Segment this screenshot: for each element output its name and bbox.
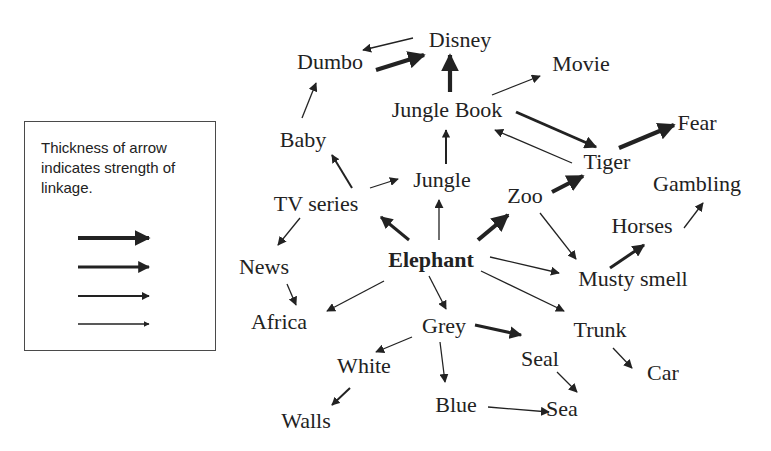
node-gambling: Gambling: [653, 173, 741, 195]
arrow-tiger-to-fear: [619, 125, 674, 148]
arrow-elephant-to-trunk: [481, 271, 564, 311]
node-trunk: Trunk: [574, 319, 627, 341]
node-disney: Disney: [429, 29, 491, 51]
arrow-elephant-to-tv-series: [381, 217, 409, 240]
arrow-baby-to-dumbo: [302, 83, 316, 118]
node-elephant: Elephant: [388, 249, 474, 271]
arrow-blue-to-sea: [488, 407, 549, 412]
node-jungle: Jungle: [413, 169, 470, 191]
node-news: News: [239, 256, 289, 278]
node-sea: Sea: [546, 398, 578, 420]
arrow-white-to-walls: [332, 388, 350, 405]
node-grey: Grey: [422, 315, 466, 337]
node-fear: Fear: [677, 112, 716, 134]
node-seal: Seal: [521, 348, 559, 370]
arrow-elephant-to-musty-smell: [490, 257, 559, 273]
node-car: Car: [647, 362, 679, 384]
arrow-trunk-to-car: [613, 348, 632, 368]
node-blue: Blue: [435, 394, 477, 416]
node-baby: Baby: [280, 129, 326, 151]
node-zoo: Zoo: [507, 185, 542, 207]
node-tiger: Tiger: [584, 151, 631, 173]
arrow-tv-series-to-jungle: [370, 179, 398, 188]
arrow-zoo-to-musty-smell: [540, 213, 576, 259]
node-dumbo: Dumbo: [297, 51, 363, 73]
arrow-elephant-to-zoo: [478, 215, 508, 240]
node-walls: Walls: [281, 410, 331, 432]
arrow-tiger-to-jungle-book: [495, 130, 572, 163]
arrow-tv-series-to-baby: [332, 155, 352, 188]
node-musty-smell: Musty smell: [578, 268, 687, 290]
node-tv-series: TV series: [274, 193, 359, 215]
arrow-musty-smell-to-horses: [610, 245, 644, 268]
arrow-grey-to-seal: [475, 325, 521, 335]
node-white: White: [337, 355, 391, 377]
node-africa: Africa: [251, 311, 307, 333]
arrow-news-to-africa: [287, 284, 296, 305]
arrow-grey-to-blue: [440, 342, 445, 382]
arrow-dumbo-to-disney: [376, 55, 424, 70]
arrow-horses-to-gambling: [684, 203, 703, 228]
node-horses: Horses: [611, 215, 672, 237]
arrow-zoo-to-tiger: [552, 176, 583, 192]
node-movie: Movie: [552, 53, 609, 75]
arrow-elephant-to-africa: [327, 281, 384, 311]
arrow-elephant-to-grey: [429, 276, 446, 309]
arrow-tv-series-to-news: [278, 218, 300, 245]
arrow-seal-to-sea: [557, 372, 577, 392]
arrow-jungle-book-to-movie: [492, 76, 540, 95]
node-jungle-book: Jungle Book: [392, 99, 503, 121]
arrow-disney-to-dumbo: [363, 38, 413, 50]
arrow-jungle-book-to-tiger: [516, 112, 596, 147]
arrow-grey-to-white: [376, 337, 412, 352]
